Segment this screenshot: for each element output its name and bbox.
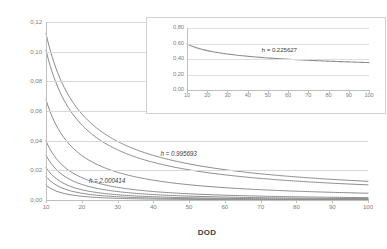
x-tick-label: 90 xyxy=(346,93,352,99)
x-tick-label: 20 xyxy=(204,93,210,99)
chart-figure: 0,000,020,040,060,080,100,12102030405060… xyxy=(0,0,387,249)
x-tick-label: 100 xyxy=(363,204,373,210)
x-tick-label: 50 xyxy=(186,204,193,210)
inset-plot-area: 0,000,200,400,600,8010203040506070809010… xyxy=(187,28,369,90)
x-tick-label: 60 xyxy=(285,93,291,99)
y-tick-label: 0,08 xyxy=(30,78,42,84)
x-axis-title: DOD xyxy=(46,228,368,237)
y-tick-label: 0,10 xyxy=(30,49,42,55)
series-line xyxy=(46,141,368,198)
y-tick-label: 0,20 xyxy=(173,72,184,78)
y-tick-label: 0,00 xyxy=(30,197,42,203)
x-tick-label: 70 xyxy=(257,204,264,210)
curve-annotation: h = 0.225627 xyxy=(262,46,297,53)
gridline-y xyxy=(187,28,369,29)
y-tick-label: 0,00 xyxy=(173,87,184,93)
x-tick-label: 80 xyxy=(293,204,300,210)
curve-annotation: h = 0.995693 xyxy=(160,150,196,157)
gridline-y xyxy=(187,75,369,76)
gridline-y xyxy=(187,44,369,45)
inset-panel: 0,000,200,400,600,8010203040506070809010… xyxy=(146,17,386,114)
x-tick-label: 60 xyxy=(222,204,229,210)
y-tick-label: 0,12 xyxy=(30,19,42,25)
y-axis-line xyxy=(187,28,188,90)
x-tick-label: 10 xyxy=(184,93,190,99)
y-tick-label: 0,02 xyxy=(30,167,42,173)
x-tick-label: 70 xyxy=(305,93,311,99)
x-tick-label: 30 xyxy=(224,93,230,99)
x-tick-label: 20 xyxy=(78,204,85,210)
y-tick-label: 0,60 xyxy=(173,41,184,47)
gridline-y xyxy=(46,170,368,171)
gridline-y xyxy=(46,141,368,142)
x-tick-label: 10 xyxy=(43,204,50,210)
x-axis-line xyxy=(187,90,369,91)
y-axis-line xyxy=(46,22,47,200)
y-tick-label: 0,80 xyxy=(173,25,184,31)
x-tick-label: 50 xyxy=(265,93,271,99)
y-tick-label: 0,04 xyxy=(30,138,42,144)
x-tick-label: 100 xyxy=(364,93,373,99)
curve-annotation: h = 2.000414 xyxy=(89,177,125,184)
x-axis-line xyxy=(46,200,368,201)
gridline-y xyxy=(187,59,369,60)
x-tick-label: 80 xyxy=(326,93,332,99)
y-tick-label: 0,40 xyxy=(173,56,184,62)
x-tick-label: 40 xyxy=(245,93,251,99)
x-tick-label: 30 xyxy=(114,204,121,210)
y-tick-label: 0,06 xyxy=(30,108,42,114)
x-tick-label: 40 xyxy=(150,204,157,210)
x-tick-label: 90 xyxy=(329,204,336,210)
